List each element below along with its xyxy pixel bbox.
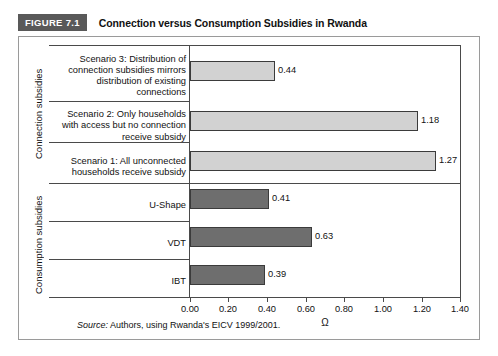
x-axis-tick <box>460 298 461 302</box>
bar-value-u-shape: 0.41 <box>272 193 290 203</box>
bar-scenario-3 <box>190 61 275 81</box>
source-note: Source: Authors, using Rwanda's EICV 199… <box>77 320 280 330</box>
x-axis-tick-label: 1.40 <box>451 304 469 314</box>
x-axis-tick-label: 0.40 <box>258 304 276 314</box>
x-axis-tick <box>306 298 307 302</box>
x-axis-tick <box>422 298 423 302</box>
group-label-connection-subsidies: Connection subsidies <box>31 47 45 181</box>
category-label-ibt: IBT <box>49 263 189 301</box>
bar-value-scenario-3: 0.44 <box>278 65 296 75</box>
source-text: Authors, using Rwanda's EICV 1999/2001. <box>108 320 280 330</box>
x-axis-tick <box>383 298 384 302</box>
category-label-scenario-2: Scenario 2: Only households with access … <box>49 105 189 147</box>
source-label: Source: <box>77 320 108 330</box>
x-axis-tick-label: 0.00 <box>181 304 199 314</box>
row-separator <box>49 45 189 46</box>
x-axis-tick <box>267 298 268 302</box>
figure-container: FIGURE 7.1 Connection versus Consumption… <box>0 0 498 356</box>
bar-scenario-2 <box>190 111 418 131</box>
plot-frame <box>189 45 461 297</box>
x-axis-tick-label: 0.80 <box>335 304 353 314</box>
bar-value-scenario-2: 1.18 <box>421 115 439 125</box>
bar-value-scenario-1: 1.27 <box>439 155 457 165</box>
bar-value-ibt: 0.39 <box>268 269 286 279</box>
bar-ibt <box>190 265 265 285</box>
category-label-vdt: VDT <box>49 225 189 263</box>
x-axis-tick-label: 0.60 <box>297 304 315 314</box>
category-label-scenario-3: Scenario 3: Distribution of connection s… <box>49 47 189 105</box>
x-axis-tick <box>190 298 191 302</box>
figure-title: Connection versus Consumption Subsidies … <box>87 14 367 31</box>
x-axis-tick <box>228 298 229 302</box>
chart-area: Connection subsidies Consumption subsidi… <box>19 37 481 341</box>
x-axis-tick-label: 0.20 <box>219 304 237 314</box>
plot-frame-right-edge <box>460 45 461 297</box>
x-axis-tick-label: 1.00 <box>374 304 392 314</box>
figure-number-badge: FIGURE 7.1 <box>18 14 87 31</box>
figure-panel: Connection subsidies Consumption subsidi… <box>18 36 480 340</box>
plot-frame-top-edge <box>189 45 461 46</box>
bar-scenario-1 <box>190 151 436 171</box>
x-axis-tick-label: 1.20 <box>413 304 431 314</box>
bar-value-vdt: 0.63 <box>315 231 333 241</box>
bar-u-shape <box>190 189 269 209</box>
x-axis-tick <box>344 298 345 302</box>
group-label-consumption-subsidies: Consumption subsidies <box>31 185 45 305</box>
category-label-u-shape: U-Shape <box>49 187 189 225</box>
category-label-scenario-1: Scenario 1: All unconnected households r… <box>49 146 189 188</box>
bar-vdt <box>190 227 312 247</box>
figure-header: FIGURE 7.1 Connection versus Consumption… <box>18 14 480 31</box>
x-axis-title: Ω <box>321 317 328 328</box>
